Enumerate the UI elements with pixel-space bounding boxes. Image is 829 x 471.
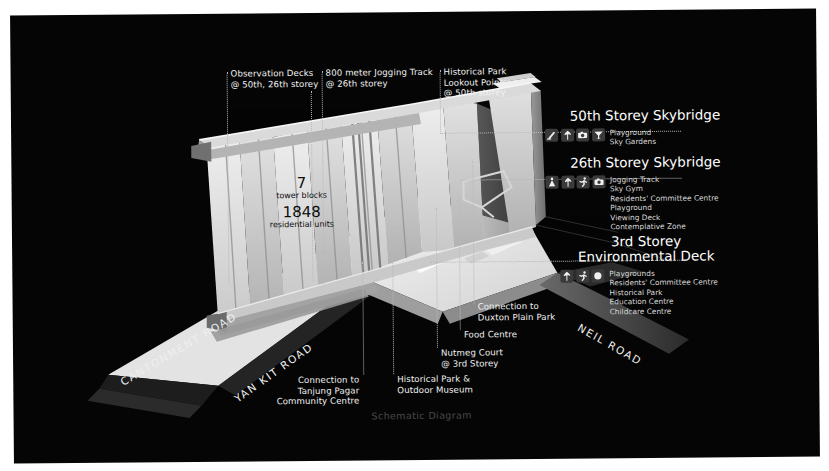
callout-jogging-track: 800 meter Jogging Track @ 26th storey [326,67,433,89]
slide-icon [545,129,558,142]
circle-icon [591,269,604,282]
tower-count-value: 7 [251,176,351,192]
tree-icon [561,176,574,189]
callout-nutmeg-court: Nutmeg Court @ 3rd Storey [441,347,503,369]
legend-icons [545,175,605,189]
callout-historical-park-lookout: Historical Park Lookout Points @ 50th st… [444,66,508,98]
legend-items: Playgrounds Residents' Committee Centre … [609,268,718,316]
legend-icons [545,128,605,142]
legend-items: Playground Sky Gardens [610,128,657,147]
camera-icon [592,175,605,188]
tree-icon [561,129,574,142]
legend-items: Jogging Track Sky Gym Residents' Committ… [610,174,719,231]
legend-title: 3rd Storey Environmental Deck [546,233,746,265]
callout-historical-park-museum: Historical Park & Outdoor Museum [397,374,473,396]
camera-icon [576,128,589,141]
legend-skybridge-50: 50th Storey Skybridge Playground Sky Gar… [545,107,745,148]
legend-skybridge-26: 26th Storey Skybridge Jogging Track Sky … [545,154,746,232]
schematic-page: Observation Decks @ 50th, 26th storey 80… [0,0,829,471]
legend-title: 26th Storey Skybridge [545,154,745,171]
callout-tanjung-pagar-cc: Connection to Tanjung Pagar Community Ce… [259,374,359,407]
legend-icons [560,269,604,282]
runner-icon [576,175,589,188]
tree-icon [560,270,573,283]
tower-stats: 7 tower blocks 1848 residential units [251,176,351,231]
callout-observation-decks: Observation Decks @ 50th, 26th storey [231,68,319,90]
unit-count-value: 1848 [252,205,352,221]
gym-icon [545,176,558,189]
diagram-canvas: Observation Decks @ 50th, 26th storey 80… [10,8,820,463]
runner-icon [576,269,589,282]
tower-count-label: tower blocks [252,191,352,202]
diagram-caption: Schematic Diagram [372,410,472,422]
legend-environmental-deck-3: 3rd Storey Environmental Deck Playground… [546,233,747,317]
callout-duxton-plain-park: Connection to Duxton Plain Park [478,301,556,323]
umbrella-icon [592,128,605,141]
callout-food-centre: Food Centre [464,329,517,340]
unit-count-label: residential units [252,220,352,231]
legend-title: 50th Storey Skybridge [545,107,745,124]
